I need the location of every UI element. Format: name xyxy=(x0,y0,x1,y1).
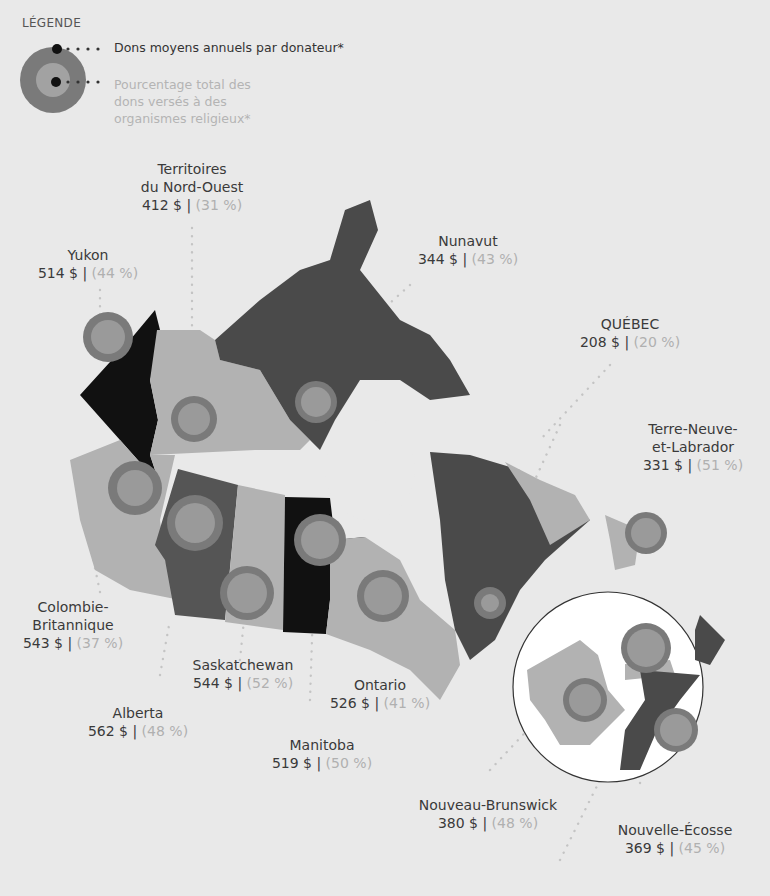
legend-outer-label: Dons moyens annuels par donateur* xyxy=(114,40,344,55)
label-nova-scotia: Nouvelle-Écosse 369 $ | (45 %) xyxy=(605,821,745,857)
label-ontario: Ontario 526 $ | (41 %) xyxy=(320,676,440,712)
marker-nunavut-icon xyxy=(295,381,337,423)
marker-newfoundland-icon xyxy=(625,512,667,554)
marker-pei-icon xyxy=(621,623,671,673)
marker-saskatchewan-icon xyxy=(220,566,274,620)
label-yukon: Yukon 514 $ | (44 %) xyxy=(28,246,148,282)
label-nunavut: Nunavut 344 $ | (43 %) xyxy=(408,232,528,268)
legend-inner-label: Pourcentage total des dons versés à des … xyxy=(114,76,274,127)
marker-bc-icon xyxy=(108,461,162,515)
marker-manitoba-icon xyxy=(294,514,346,566)
marker-quebec-icon xyxy=(474,587,506,619)
hudson-bay xyxy=(325,420,415,520)
legend-symbol-icon xyxy=(20,44,100,113)
label-bc: Colombie- Britannique 543 $ | (37 %) xyxy=(8,598,138,652)
marker-yukon-icon xyxy=(83,312,133,362)
label-newfoundland-labrador: Terre-Neuve- et-Labrador 331 $ | (51 %) xyxy=(628,420,758,474)
label-new-brunswick: Nouveau-Brunswick 380 $ | (48 %) xyxy=(408,796,568,832)
label-manitoba: Manitoba 519 $ | (50 %) xyxy=(262,736,382,772)
marker-nb-icon xyxy=(563,678,607,722)
marker-ns-icon xyxy=(654,708,698,752)
label-saskatchewan: Saskatchewan 544 $ | (52 %) xyxy=(178,656,308,692)
label-alberta: Alberta 562 $ | (48 %) xyxy=(78,704,198,740)
marker-ontario-icon xyxy=(357,570,409,622)
marker-alberta-icon xyxy=(167,495,223,551)
legend-title: LÉGENDE xyxy=(22,16,81,30)
label-quebec: QUÉBEC 208 $ | (20 %) xyxy=(570,315,690,351)
marker-nwt-icon xyxy=(171,396,217,442)
maritimes-inset xyxy=(513,592,725,782)
label-nwt: Territoires du Nord-Ouest 412 $ | (31 %) xyxy=(132,160,252,214)
